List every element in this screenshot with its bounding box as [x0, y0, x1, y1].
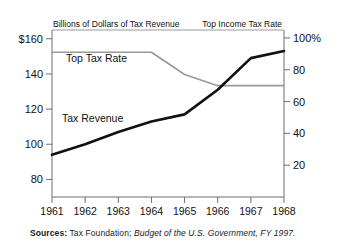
right-axis-ticks: 100%80604020 [284, 32, 321, 171]
right-tick-label: 20 [293, 159, 305, 171]
x-tick-label: 1962 [73, 205, 97, 217]
x-tick-label: 1963 [107, 205, 131, 217]
tax-revenue-vs-top-rate-chart: $16014012010080 100%80604020 19611962196… [0, 0, 340, 247]
sources-footnote: Sources: Tax Foundation; Budget of the U… [30, 228, 296, 238]
series-line-tax-revenue [52, 51, 284, 155]
sources-plain: Tax Foundation; [67, 228, 134, 238]
x-tick-label: 1961 [40, 205, 64, 217]
left-tick-label: 120 [25, 103, 43, 115]
left-tick-label: 80 [31, 173, 43, 185]
x-tick-label: 1968 [272, 205, 296, 217]
right-tick-label: 40 [293, 127, 305, 139]
left-tick-label: 100 [25, 138, 43, 150]
series-annotation-tax-revenue: Tax Revenue [62, 112, 123, 124]
x-tick-label: 1965 [173, 205, 197, 217]
left-axis-ticks: $16014012010080 [19, 33, 52, 186]
right-tick-label: 60 [293, 96, 305, 108]
x-tick-label: 1966 [206, 205, 230, 217]
chart-figure: $16014012010080 100%80604020 19611962196… [0, 0, 340, 247]
sources-italic: Budget of the U.S. Government, FY 1997. [134, 228, 296, 238]
x-tick-label: 1967 [239, 205, 263, 217]
series-group [52, 51, 284, 155]
sources-label: Sources: [30, 228, 67, 238]
x-tick-label: 1964 [140, 205, 164, 217]
right-tick-label: 100% [293, 32, 321, 44]
right-tick-label: 80 [293, 64, 305, 76]
right-axis-title: Top Income Tax Rate [202, 19, 282, 29]
left-axis-title: Billions of Dollars of Tax Revenue [53, 19, 180, 29]
left-tick-label: $160 [19, 33, 43, 45]
series-annotation-top-tax-rate: Top Tax Rate [66, 52, 127, 64]
x-axis-ticks: 19611962196319641965196619671968 [40, 197, 296, 217]
left-tick-label: 140 [25, 68, 43, 80]
